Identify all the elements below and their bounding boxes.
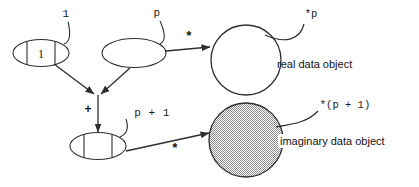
real-object-label: *p [305, 8, 318, 20]
array-cell-second-label: p + 1 [134, 107, 170, 119]
label-leader-real-object: *p [265, 8, 317, 40]
imaginary-object-label: *(p + 1) [320, 99, 370, 111]
edge-first-cell-to-sum [54, 64, 94, 94]
pointer-diagram: 1 1 p + p + 1 [0, 0, 419, 187]
label-leader-imaginary-object: *(p + 1) [276, 99, 370, 127]
pointer-var-outline [102, 39, 166, 68]
edge-deref-bottom [126, 133, 209, 151]
leader-line-second-cell [120, 119, 127, 137]
array-cell-second-outline [70, 133, 126, 160]
leader-line-imaginary-object [276, 111, 318, 127]
node-array-cell-second [70, 133, 126, 160]
imaginary-object-caption: imaginary data object [280, 135, 385, 147]
sum-operator-label: + [84, 102, 91, 116]
node-pointer-var [102, 39, 166, 68]
real-object-caption: real data object [277, 58, 352, 70]
label-leader-pointer-var: p [153, 7, 164, 44]
leader-line-first-cell [64, 22, 70, 44]
edge-pointer-var-to-sum [101, 68, 130, 94]
array-cell-first-value: 1 [38, 47, 44, 61]
label-leader-first-cell: 1 [62, 8, 69, 44]
edge-deref-top-label: * [185, 29, 193, 44]
pointer-var-label: p [153, 7, 160, 19]
leader-line-real-object [265, 24, 304, 40]
edge-deref-bottom-label: * [171, 141, 179, 156]
edge-deref-top [166, 47, 210, 51]
node-array-cell-first: 1 [13, 40, 69, 67]
node-real-object: real data object [211, 25, 352, 95]
label-leader-second-cell: p + 1 [120, 107, 170, 137]
diagram-canvas: 1 1 p + p + 1 [0, 0, 419, 187]
real-object-outline [211, 25, 281, 95]
imaginary-object-outline [209, 103, 283, 177]
leader-line-pointer-var [160, 21, 164, 44]
node-imaginary-object: imaginary data object [209, 103, 406, 177]
array-cell-first-label: 1 [62, 8, 69, 20]
